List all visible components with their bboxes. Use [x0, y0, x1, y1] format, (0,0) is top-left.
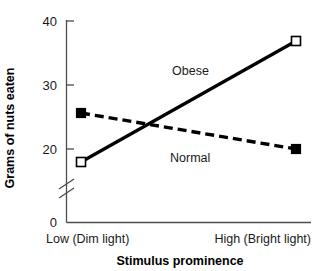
line-chart: 40 30 20 0 Grams of nuts eaten Obese Nor…	[0, 0, 322, 271]
series-label-normal: Normal	[170, 151, 210, 165]
y-tick-label-0: 0	[50, 215, 57, 230]
y-axis-title: Grams of nuts eaten	[3, 68, 17, 189]
y-tick-label-30: 30	[43, 78, 57, 93]
data-point-obese-high	[292, 37, 301, 46]
series-label-obese: Obese	[172, 64, 209, 78]
y-tick-label-20: 20	[43, 142, 57, 157]
data-point-obese-low	[77, 158, 86, 167]
y-tick-label-40: 40	[43, 14, 57, 29]
chart-figure: 40 30 20 0 Grams of nuts eaten Obese Nor…	[0, 0, 322, 271]
x-axis-title: Stimulus prominence	[116, 254, 243, 268]
x-category-label-high: High (Bright light)	[214, 232, 311, 246]
x-category-label-low: Low (Dim light)	[46, 232, 129, 246]
data-point-normal-high	[292, 145, 301, 154]
data-point-normal-low	[77, 109, 86, 118]
